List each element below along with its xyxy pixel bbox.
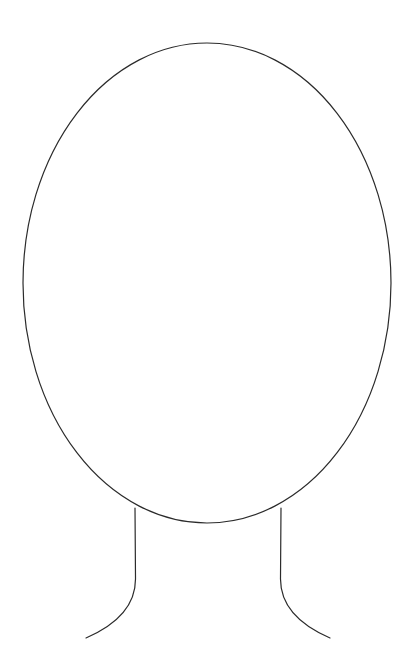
- canvas-background: [0, 0, 413, 672]
- drawing-canvas: [0, 0, 413, 672]
- head-outline-figure: [0, 0, 413, 672]
